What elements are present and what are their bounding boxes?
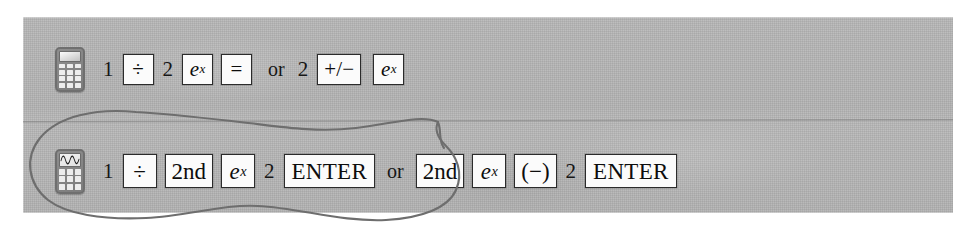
calculator-screen: [59, 51, 81, 62]
key-2nd-2[interactable]: 2nd: [416, 154, 465, 188]
key-e-base: e: [481, 160, 491, 183]
connector-or: or: [268, 59, 285, 79]
key-2nd[interactable]: 2nd: [165, 154, 214, 188]
key-divide[interactable]: ÷: [123, 54, 154, 85]
operand-1: 1: [102, 161, 115, 182]
key-e-base: e: [190, 59, 199, 80]
operand-1: 1: [102, 59, 115, 80]
operand-3: 2: [297, 59, 310, 80]
key-enter[interactable]: ENTER: [284, 154, 376, 188]
key-e-to-the-x-2[interactable]: ex: [373, 54, 404, 85]
calculator-graph-screen: [59, 153, 81, 167]
key-e-to-the-x[interactable]: ex: [221, 154, 255, 188]
operand-3: 2: [565, 161, 578, 182]
graphing-calculator-icon: [55, 149, 85, 194]
key-e-base: e: [229, 160, 239, 183]
key-enter-2[interactable]: ENTER: [585, 154, 677, 188]
key-e-base: e: [381, 59, 390, 80]
operand-2: 2: [162, 59, 175, 80]
basic-calculator-icon: [55, 47, 85, 92]
calculator-keypad: [59, 169, 81, 190]
graphing-calculator-row: 1 ÷ 2nd ex 2 ENTER or 2nd ex (−) 2 ENTER: [55, 148, 677, 194]
calculator-keypad: [59, 64, 81, 88]
key-divide[interactable]: ÷: [123, 154, 157, 188]
connector-or: or: [387, 161, 404, 181]
key-equals[interactable]: =: [221, 54, 252, 85]
sine-wave-icon: [60, 154, 80, 166]
operand-2: 2: [263, 161, 276, 182]
basic-calculator-row: 1 ÷ 2 ex = or 2 +/− ex: [55, 46, 404, 92]
key-negate[interactable]: (−): [514, 154, 556, 188]
calculator-keystroke-figure: 1 ÷ 2 ex = or 2 +/− ex: [0, 0, 960, 243]
key-e-to-the-x-2[interactable]: ex: [472, 154, 506, 188]
key-plus-minus[interactable]: +/−: [317, 54, 361, 85]
key-e-to-the-x[interactable]: ex: [182, 54, 213, 85]
